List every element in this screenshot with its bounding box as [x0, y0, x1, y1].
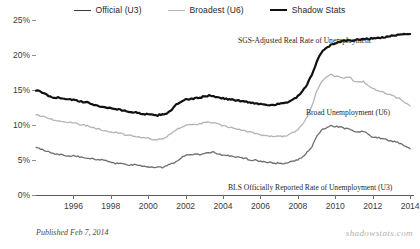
site-watermark: shadowstats.com	[346, 228, 413, 238]
series-line-official-u3	[36, 125, 410, 168]
annotation-u3: BLS Officially Reported Rate of Unemploy…	[228, 183, 392, 192]
x-axis-tick	[260, 195, 261, 199]
annotation-u6: Broad Unemployment (U6)	[306, 108, 390, 117]
legend-swatch-u3-icon	[74, 10, 91, 11]
legend-swatch-shadowstats-icon	[270, 9, 287, 11]
x-axis-tick	[148, 195, 149, 199]
x-axis-label: 2008	[288, 201, 307, 211]
legend-swatch-u6-icon	[168, 10, 185, 11]
x-axis-label: 1996	[64, 201, 83, 211]
y-axis-label: 20%	[0, 50, 30, 60]
y-axis-label: 10%	[0, 120, 30, 130]
chart-legend: Official (U3) Broadest (U6) Shadow Stats	[0, 2, 419, 18]
y-axis-label: 0%	[0, 190, 30, 200]
x-axis-label: 2014	[401, 201, 420, 211]
annotation-shadowstats: SGS-Adjusted Real Rate of Unemployment	[238, 36, 371, 45]
legend-item-u6: Broadest (U6)	[168, 5, 244, 15]
legend-item-u3: Official (U3)	[74, 5, 142, 15]
y-axis-label: 15%	[0, 85, 30, 95]
x-axis-tick	[335, 195, 336, 199]
x-axis-tick	[223, 195, 224, 199]
x-axis-label: 2002	[176, 201, 195, 211]
published-date: Published Feb 7, 2014	[36, 228, 108, 237]
legend-label-shadowstats: Shadow Stats	[292, 5, 346, 15]
x-axis-label: 2010	[326, 201, 345, 211]
x-axis-tick	[298, 195, 299, 199]
x-axis-tick	[111, 195, 112, 199]
x-axis-tick	[186, 195, 187, 199]
legend-label-u6: Broadest (U6)	[190, 5, 244, 15]
x-axis-label: 2006	[251, 201, 270, 211]
legend-label-u3: Official (U3)	[96, 5, 142, 15]
x-axis-tick	[373, 195, 374, 199]
x-axis-label: 2004	[214, 201, 233, 211]
x-axis-tick	[410, 195, 411, 199]
y-axis-label: 5%	[0, 155, 30, 165]
y-axis-label: 25%	[0, 15, 30, 25]
x-axis-label: 2000	[139, 201, 158, 211]
x-axis-label: 1998	[101, 201, 120, 211]
x-axis-line	[36, 195, 414, 196]
x-axis-tick	[73, 195, 74, 199]
series-line-shadow-stats	[36, 34, 410, 116]
legend-item-shadowstats: Shadow Stats	[270, 5, 346, 15]
x-axis-label: 2012	[363, 201, 382, 211]
